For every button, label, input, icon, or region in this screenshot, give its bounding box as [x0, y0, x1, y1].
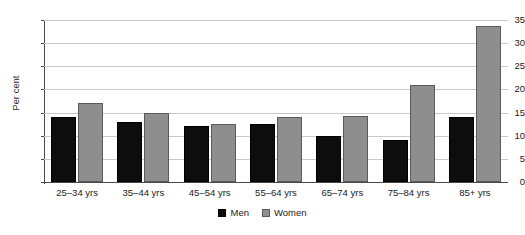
bar-men-4: [316, 136, 341, 182]
bar-chart: Per cent 05101520253035 25–34 yrs35–44 y…: [0, 0, 525, 235]
x-tick-label: 75–84 yrs: [375, 188, 441, 198]
legend-label-women: Women: [274, 208, 307, 218]
bar-men-1: [117, 122, 142, 182]
legend-item-women: Women: [262, 208, 307, 218]
x-tick-label: 55–64 yrs: [243, 188, 309, 198]
bar-women-6: [476, 26, 501, 182]
legend-swatch-women-icon: [262, 209, 270, 217]
x-tick-label: 65–74 yrs: [309, 188, 375, 198]
plot-area: [44, 20, 508, 183]
bar-women-0: [78, 103, 103, 182]
bar-men-2: [184, 126, 209, 182]
legend-label-men: Men: [230, 208, 248, 218]
legend-item-men: Men: [218, 208, 248, 218]
bar-men-5: [383, 140, 408, 182]
bar-men-6: [449, 117, 474, 182]
x-tick-label: 25–34 yrs: [44, 188, 110, 198]
bar-men-3: [250, 124, 275, 182]
bar-women-5: [410, 85, 435, 182]
x-tick-label: 85+ yrs: [442, 188, 508, 198]
bar-women-1: [144, 113, 169, 182]
bar-women-4: [343, 116, 368, 182]
y-axis-title: Per cent: [11, 53, 21, 133]
bar-men-0: [51, 117, 76, 182]
bar-women-3: [277, 117, 302, 182]
bars-layer: [44, 20, 508, 183]
bar-women-2: [211, 124, 236, 182]
legend: Men Women: [0, 208, 525, 218]
x-tick-label: 45–54 yrs: [177, 188, 243, 198]
x-tick-label: 35–44 yrs: [110, 188, 176, 198]
legend-swatch-men-icon: [218, 209, 226, 217]
